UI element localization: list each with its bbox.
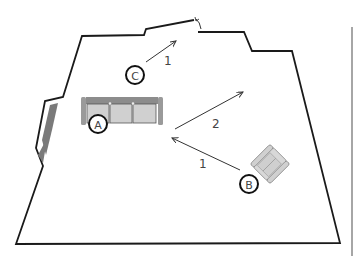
position-marker-a: A: [89, 115, 107, 133]
floor-plan-diagram: 1 2 1 A B C: [0, 0, 354, 256]
position-marker-c: C: [126, 66, 144, 84]
arrow-2: [175, 92, 243, 129]
position-marker-b: B: [240, 175, 258, 193]
arrow-label: 1: [164, 54, 172, 68]
svg-text:C: C: [131, 70, 139, 83]
svg-text:B: B: [245, 179, 253, 192]
arrow-label: 2: [212, 117, 220, 131]
arrow-label: 1: [199, 157, 207, 171]
room-walls: [16, 20, 340, 244]
svg-text:A: A: [94, 119, 102, 132]
